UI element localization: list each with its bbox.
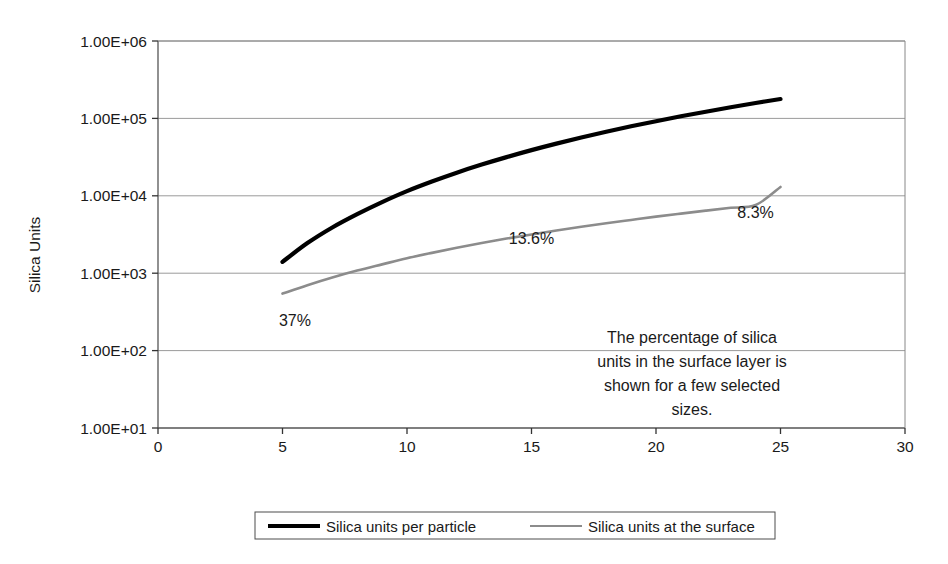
x-axis-ticks: 051015202530 bbox=[154, 428, 914, 455]
note-line-1: units in the surface layer is bbox=[597, 353, 786, 370]
note-line-0: The percentage of silica bbox=[607, 329, 777, 346]
percent-label-37: 37% bbox=[279, 312, 311, 329]
legend-label-0: Silica units per particle bbox=[326, 518, 476, 535]
y-tick-label: 1.00E+01 bbox=[80, 420, 147, 437]
y-tick-label: 1.00E+04 bbox=[80, 187, 147, 204]
note-line-2: shown for a few selected bbox=[604, 377, 780, 394]
y-axis-ticks: 1.00E+011.00E+021.00E+031.00E+041.00E+05… bbox=[80, 33, 158, 437]
x-tick-label: 0 bbox=[154, 438, 163, 455]
x-tick-label: 15 bbox=[523, 438, 540, 455]
y-axis-title: Silica Units bbox=[26, 216, 43, 293]
chart-svg: 1.00E+011.00E+021.00E+031.00E+041.00E+05… bbox=[0, 0, 948, 564]
percent-label-8-3: 8.3% bbox=[737, 204, 773, 221]
y-tick-label: 1.00E+02 bbox=[80, 342, 147, 359]
y-tick-label: 1.00E+05 bbox=[80, 110, 147, 127]
y-tick-label: 1.00E+06 bbox=[80, 33, 147, 50]
chart-figure: 1.00E+011.00E+021.00E+031.00E+041.00E+05… bbox=[0, 0, 948, 564]
y-tick-label: 1.00E+03 bbox=[80, 265, 147, 282]
percent-label-13-6: 13.6% bbox=[509, 230, 554, 247]
legend-label-1: Silica units at the surface bbox=[588, 518, 755, 535]
chart-legend: Silica units per particleSilica units at… bbox=[255, 512, 775, 539]
x-tick-label: 20 bbox=[647, 438, 665, 455]
x-tick-label: 10 bbox=[398, 438, 416, 455]
x-tick-label: 25 bbox=[772, 438, 789, 455]
note-line-3: sizes. bbox=[672, 401, 713, 418]
x-tick-label: 5 bbox=[278, 438, 287, 455]
x-tick-label: 30 bbox=[896, 438, 914, 455]
